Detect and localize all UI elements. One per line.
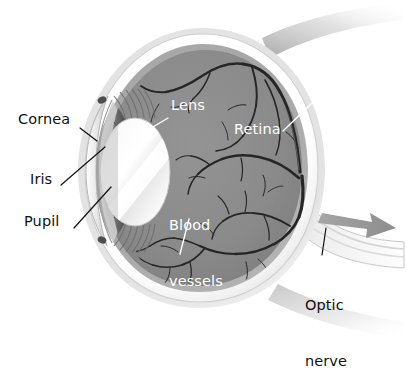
label-pupil[interactable]: Pupil (24, 212, 59, 231)
label-blood-vessels-line-1: Blood (169, 216, 223, 235)
label-optic-nerve-line-2: nerve (305, 352, 347, 370)
label-blood-vessels-line-2: vessels (169, 272, 223, 291)
label-iris[interactable]: Iris (30, 170, 52, 189)
label-retina[interactable]: Retina (234, 120, 281, 139)
label-cornea[interactable]: Cornea (18, 110, 70, 129)
label-blood-vessels[interactable]: Blood vessels (169, 178, 223, 329)
label-optic-nerve[interactable]: Optic nerve (305, 258, 347, 370)
label-optic-nerve-line-1: Optic (305, 296, 347, 315)
streak-top-icon (262, 4, 404, 58)
label-lens[interactable]: Lens (171, 96, 205, 115)
